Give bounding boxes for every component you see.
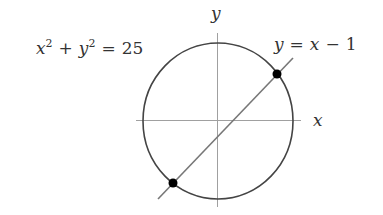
line-eq-const: 1 [346, 34, 357, 54]
upper-intersection-point [273, 70, 282, 79]
lower-intersection-point [169, 179, 178, 188]
eq-x-exp: 2 [46, 37, 53, 50]
x-axis-label: x [313, 110, 323, 130]
line-eq-minus: − [325, 34, 339, 54]
eq-rhs: 25 [122, 38, 144, 58]
eq-y-exp: 2 [88, 37, 95, 50]
eq-x: x [36, 38, 46, 58]
eq-plus: + [59, 38, 73, 58]
eq-equals: = [101, 38, 115, 58]
line-eq-y: y [273, 34, 284, 54]
eq-y: y [78, 38, 89, 58]
circle-equation-label: x2+y2=25 [36, 37, 143, 58]
y-axis-label: y [210, 3, 221, 23]
line-equation-label: y=x−1 [273, 34, 357, 54]
line-eq-x: x [310, 34, 320, 54]
line-y-equals-x-minus-1 [158, 58, 293, 199]
line-eq-equals: = [290, 34, 304, 54]
diagram-canvas: y x x2+y2=25 y=x−1 [0, 0, 383, 215]
